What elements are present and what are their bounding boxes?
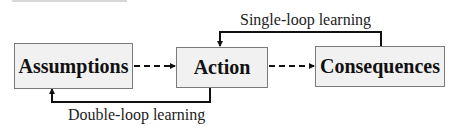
node-consequences: Consequences xyxy=(315,46,445,87)
node-consequences-label: Consequences xyxy=(320,55,440,78)
single-loop-label: Single-loop learning xyxy=(240,11,371,29)
double-loop-label: Double-loop learning xyxy=(68,106,205,124)
single-loop-arrow xyxy=(220,32,381,46)
double-loop-arrow xyxy=(52,88,210,102)
node-action-label: Action xyxy=(194,56,251,79)
node-assumptions-label: Assumptions xyxy=(18,55,128,78)
node-action: Action xyxy=(176,47,268,88)
node-assumptions: Assumptions xyxy=(14,43,133,89)
